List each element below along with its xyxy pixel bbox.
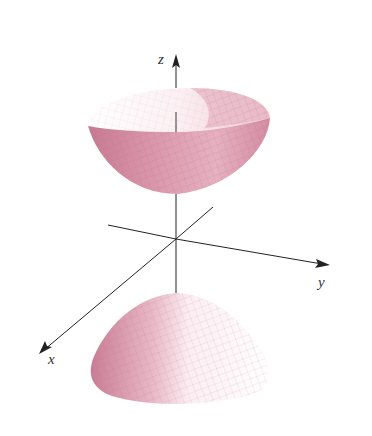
x-axis-negative <box>176 207 213 239</box>
y-axis-label: y <box>316 274 325 290</box>
lower-sheet <box>91 293 269 404</box>
upper-sheet <box>88 88 270 194</box>
x-axis-label: x <box>47 351 55 367</box>
axes-back <box>108 207 213 239</box>
y-axis <box>176 239 322 264</box>
y-axis-negative <box>108 225 176 239</box>
z-axis-label: z <box>157 51 164 67</box>
hyperboloid-diagram: z y x <box>0 0 372 436</box>
